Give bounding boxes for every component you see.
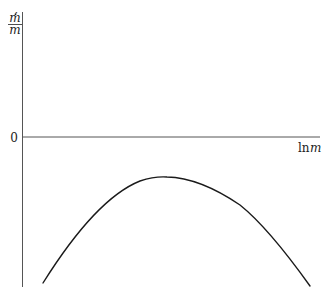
x-label-variable: m <box>310 141 321 155</box>
y-label-denominator: m <box>9 23 20 37</box>
chart-canvas: ṁ m 0 ln m <box>0 0 329 293</box>
y-tick-zero: 0 <box>10 131 18 145</box>
x-axis-label: ln m <box>298 141 321 155</box>
y-axis-label: ṁ m <box>8 11 22 37</box>
growth-rate-curve <box>43 177 310 286</box>
x-label-function: ln <box>298 141 310 155</box>
